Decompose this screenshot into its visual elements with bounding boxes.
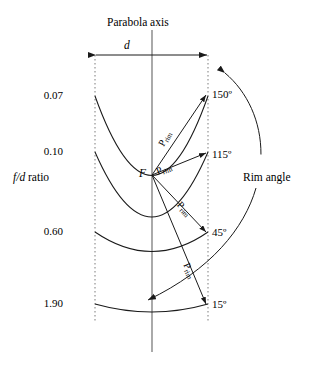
parabola-axis-title: Parabola axis xyxy=(107,17,169,29)
fd-ratio-value: 0.10 xyxy=(23,146,63,157)
diagram-canvas xyxy=(0,0,317,373)
fd-ratio-word: ratio xyxy=(25,171,49,183)
focal-ray-15 xyxy=(152,175,206,304)
rim-angle-value: 45º xyxy=(212,227,226,238)
fd-ratio-symbol: f/d xyxy=(13,171,25,183)
fd-ratio-value: 1.90 xyxy=(23,298,63,309)
parabola-rim-angle-diagram: Parabola axis d f/d ratio Rim angle F 0.… xyxy=(0,0,317,373)
fd-ratio-axis-label: f/d ratio xyxy=(13,172,49,184)
rim-angle-axis-label: Rim angle xyxy=(243,172,291,184)
fd-ratio-value: 0.07 xyxy=(23,90,63,101)
focus-point-label: F xyxy=(139,168,146,180)
rim-angle-value: 115º xyxy=(212,149,232,160)
fd-ratio-value: 0.60 xyxy=(23,226,63,237)
aperture-width-label: d xyxy=(124,40,130,52)
rim-angle-value: 15º xyxy=(212,299,226,310)
rim-angle-value: 150º xyxy=(212,89,232,100)
